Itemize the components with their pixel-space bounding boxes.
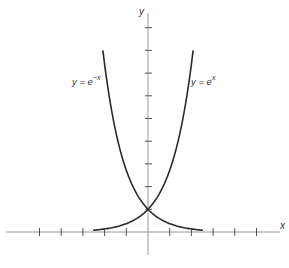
curve-label-exp-neg-x: y = e−x: [71, 74, 101, 87]
exponential-plot: x y y = e−x y = ex: [0, 0, 289, 268]
axes: [6, 13, 280, 255]
x-axis-label: x: [279, 220, 286, 231]
curve-label-exp-x: y = ex: [190, 74, 216, 87]
y-axis-label: y: [138, 6, 145, 17]
